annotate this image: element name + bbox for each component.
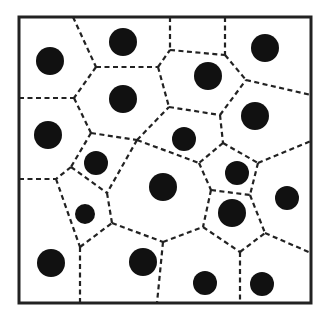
cell-boundary-edge (265, 233, 311, 253)
voronoi-diagram (0, 0, 327, 324)
cell-boundary-edge (91, 133, 137, 140)
site-dot (250, 272, 274, 296)
cell-boundary-edge (258, 141, 311, 163)
site-dot (194, 62, 222, 90)
cell-boundary-edge (250, 163, 258, 195)
cell-boundary-edge (157, 242, 163, 303)
cell-boundary-edge (223, 143, 258, 163)
site-dot (109, 28, 137, 56)
site-dot (37, 249, 65, 277)
cell-boundary-edge (220, 115, 223, 143)
cell-boundary-edge (74, 98, 91, 133)
cell-boundary-edge (199, 143, 223, 163)
cell-boundary-edge (170, 50, 225, 55)
cell-boundary-edge (56, 167, 71, 179)
cell-boundary-edge (158, 50, 170, 67)
cell-boundary-edge (225, 55, 246, 80)
site-dot (275, 186, 299, 210)
site-dot (75, 204, 95, 224)
cell-boundary-edge (107, 193, 112, 223)
site-dot (129, 248, 157, 276)
cell-boundary-edge (211, 190, 250, 195)
site-dot (172, 127, 196, 151)
site-dot (225, 161, 249, 185)
site-dot (84, 151, 108, 175)
cell-boundary-edge (250, 195, 265, 233)
cell-boundary-edge (80, 223, 112, 247)
site-dot (251, 34, 279, 62)
cell-boundary-edge (73, 17, 96, 67)
cell-boundary-edge (169, 107, 220, 115)
cell-boundary-edge (137, 107, 169, 140)
site-dot (218, 199, 246, 227)
site-dot (241, 102, 269, 130)
cell-boundary-edge (199, 163, 211, 190)
cell-boundary-edge (163, 227, 203, 242)
cell-boundary-edge (74, 67, 96, 98)
site-dot (36, 47, 64, 75)
cell-boundary-edge (203, 227, 240, 252)
cell-boundary-edge (107, 140, 137, 193)
cell-boundary-edge (112, 223, 163, 242)
site-dot (149, 173, 177, 201)
cell-boundary-edge (220, 80, 246, 115)
cell-boundary-edge (203, 190, 211, 227)
cell-boundary-edge (158, 67, 169, 107)
cell-boundary-edge (240, 233, 265, 252)
site-dot (34, 121, 62, 149)
site-dot (193, 271, 217, 295)
site-dot (109, 85, 137, 113)
cell-boundary-edge (246, 80, 311, 95)
